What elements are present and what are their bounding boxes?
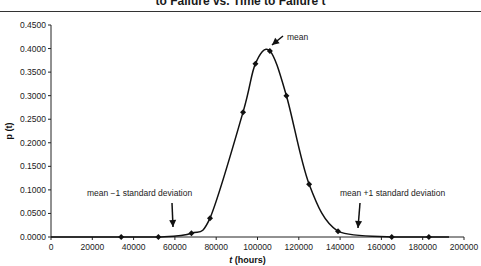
minus-sd-arrow-icon-head bbox=[169, 220, 176, 227]
y-axis-label: p (t) bbox=[4, 123, 14, 140]
plus-sd-arrow-icon-head bbox=[355, 221, 362, 228]
data-point-marker bbox=[207, 215, 213, 221]
data-point-marker bbox=[240, 109, 246, 115]
data-point-marker bbox=[188, 230, 194, 236]
y-tick-label: 0.0000 bbox=[20, 232, 46, 242]
x-tick-label: 0 bbox=[49, 242, 54, 252]
data-point-marker bbox=[155, 234, 161, 240]
y-tick-label: 0.4500 bbox=[20, 20, 46, 30]
y-tick-label: 0.2000 bbox=[20, 138, 46, 148]
mean-annotation: mean bbox=[287, 32, 309, 42]
y-tick-label: 0.2500 bbox=[20, 114, 46, 124]
data-point-marker bbox=[283, 93, 289, 99]
x-tick-label: 20000 bbox=[80, 242, 104, 252]
y-tick-label: 0.4000 bbox=[20, 44, 46, 54]
x-tick-label: 120000 bbox=[285, 242, 314, 252]
y-tick-label: 0.0500 bbox=[20, 208, 46, 218]
y-tick-label: 0.1000 bbox=[20, 185, 46, 195]
data-point-marker bbox=[389, 234, 395, 240]
y-tick-label: 0.3500 bbox=[20, 67, 46, 77]
x-tick-label: 60000 bbox=[163, 242, 187, 252]
x-tick-label: 100000 bbox=[243, 242, 272, 252]
x-tick-label: 80000 bbox=[204, 242, 228, 252]
y-tick-label: 0.1500 bbox=[20, 161, 46, 171]
data-point-marker bbox=[426, 234, 432, 240]
x-tick-label: 160000 bbox=[367, 242, 396, 252]
x-tick-label: 180000 bbox=[409, 242, 438, 252]
x-tick-label: 200000 bbox=[450, 242, 479, 252]
minus-sd-annotation: mean −1 standard deviation bbox=[87, 188, 192, 198]
y-tick-label: 0.3000 bbox=[20, 91, 46, 101]
data-point-marker bbox=[306, 181, 312, 187]
data-point-marker bbox=[118, 234, 124, 240]
x-axis-label: t (hours) bbox=[229, 255, 266, 265]
plus-sd-annotation: mean +1 standard deviation bbox=[340, 188, 445, 198]
pdf-curve bbox=[51, 49, 449, 237]
chart-plot: 0.00000.05000.10000.15000.20000.25000.30… bbox=[0, 0, 481, 266]
data-point-marker bbox=[252, 61, 258, 67]
x-tick-label: 140000 bbox=[326, 242, 355, 252]
x-tick-label: 40000 bbox=[122, 242, 146, 252]
